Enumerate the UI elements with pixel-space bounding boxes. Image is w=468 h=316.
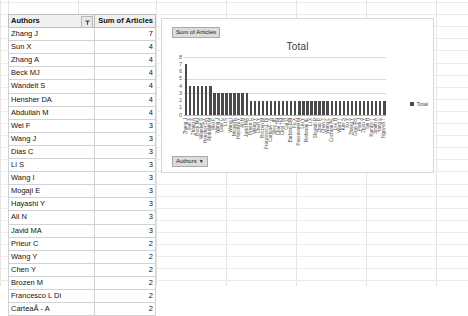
cell-author[interactable]: Hayashi Y <box>9 198 95 211</box>
chart-bar[interactable] <box>266 101 268 116</box>
chart-legend[interactable]: Total <box>410 101 428 107</box>
cell-sum-of-articles[interactable]: 4 <box>95 93 156 106</box>
chart-bar[interactable] <box>379 101 381 116</box>
table-row[interactable]: Prieur C2 <box>9 237 156 250</box>
chart-bar[interactable] <box>306 101 308 116</box>
chart-bar[interactable] <box>363 101 365 116</box>
chart-bar[interactable] <box>258 101 260 116</box>
table-row[interactable]: Zhang J7 <box>9 28 156 41</box>
chart-bar[interactable] <box>229 93 231 115</box>
chart-bar[interactable] <box>298 101 300 116</box>
table-row[interactable]: Abdullah M4 <box>9 106 156 119</box>
cell-sum-of-articles[interactable]: 3 <box>95 211 156 224</box>
chart-bar[interactable] <box>331 101 333 116</box>
chart-bar[interactable] <box>217 93 219 115</box>
cell-sum-of-articles[interactable]: 2 <box>95 276 156 289</box>
filter-sort-icon[interactable] <box>81 16 93 28</box>
chart-bar[interactable] <box>205 86 207 115</box>
column-header-sum-of-articles[interactable]: Sum of Articles <box>95 15 156 28</box>
cell-sum-of-articles[interactable]: 3 <box>95 119 156 132</box>
cell-author[interactable]: Ali N <box>9 211 95 224</box>
table-row[interactable]: Li S3 <box>9 159 156 172</box>
chart-bar[interactable] <box>290 101 292 116</box>
pivot-chart[interactable]: Sum of Articles Total 012345678 Zhang JS… <box>161 18 434 173</box>
table-row[interactable]: Javid MA3 <box>9 224 156 237</box>
chart-bar[interactable] <box>254 101 256 116</box>
cell-author[interactable]: Hensher DA <box>9 93 95 106</box>
chart-bar[interactable] <box>262 101 264 116</box>
table-row[interactable]: Beck MJ4 <box>9 67 156 80</box>
field-button-authors[interactable]: Authors ▼ <box>172 156 208 167</box>
cell-author[interactable]: Abdullah M <box>9 106 95 119</box>
cell-sum-of-articles[interactable]: 4 <box>95 54 156 67</box>
table-row[interactable]: Mogaji E3 <box>9 185 156 198</box>
chart-bar[interactable] <box>233 93 235 115</box>
cell-author[interactable]: Wang Y <box>9 250 95 263</box>
table-row[interactable]: Wei F3 <box>9 119 156 132</box>
cell-author[interactable]: Wang I <box>9 172 95 185</box>
cell-sum-of-articles[interactable]: 4 <box>95 106 156 119</box>
table-row[interactable]: Wandelt S4 <box>9 80 156 93</box>
chart-bar[interactable] <box>213 93 215 115</box>
cell-author[interactable]: Javid MA <box>9 224 95 237</box>
field-button-sum-of-articles[interactable]: Sum of Articles <box>172 27 220 38</box>
cell-sum-of-articles[interactable]: 2 <box>95 250 156 263</box>
cell-author[interactable]: Beck MJ <box>9 67 95 80</box>
chart-bar[interactable] <box>237 93 239 115</box>
table-row[interactable]: Chen Y2 <box>9 263 156 276</box>
chart-bar[interactable] <box>343 101 345 116</box>
chart-bar[interactable] <box>355 101 357 116</box>
cell-sum-of-articles[interactable]: 3 <box>95 198 156 211</box>
table-row[interactable]: Francesco L Di2 <box>9 289 156 302</box>
table-row[interactable]: Wang Y2 <box>9 250 156 263</box>
table-row[interactable]: Wang I3 <box>9 172 156 185</box>
cell-sum-of-articles[interactable]: 4 <box>95 80 156 93</box>
cell-author[interactable]: Francesco L Di <box>9 289 95 302</box>
cell-author[interactable]: Prieur C <box>9 237 95 250</box>
chart-bar[interactable] <box>339 101 341 116</box>
cell-author[interactable]: Brozen M <box>9 276 95 289</box>
cell-sum-of-articles[interactable]: 2 <box>95 263 156 276</box>
chart-bar[interactable] <box>347 101 349 116</box>
chart-bar[interactable] <box>274 101 276 116</box>
cell-author[interactable]: Wang J <box>9 132 95 145</box>
cell-sum-of-articles[interactable]: 3 <box>95 172 156 185</box>
cell-sum-of-articles[interactable]: 2 <box>95 237 156 250</box>
cell-author[interactable]: Wandelt S <box>9 80 95 93</box>
cell-sum-of-articles[interactable]: 3 <box>95 145 156 158</box>
chart-bar[interactable] <box>375 101 377 116</box>
cell-sum-of-articles[interactable]: 3 <box>95 159 156 172</box>
cell-sum-of-articles[interactable]: 3 <box>95 132 156 145</box>
table-row[interactable]: Brozen M2 <box>9 276 156 289</box>
chart-bar[interactable] <box>209 86 211 115</box>
table-row[interactable]: Sun X4 <box>9 41 156 54</box>
chart-bar[interactable] <box>193 86 195 115</box>
chart-bar[interactable] <box>383 101 385 116</box>
chart-bar[interactable] <box>351 101 353 116</box>
chart-bar[interactable] <box>335 101 337 116</box>
cell-author[interactable]: Sun X <box>9 41 95 54</box>
chart-bar[interactable] <box>250 101 252 116</box>
table-row[interactable]: Ali N3 <box>9 211 156 224</box>
cell-sum-of-articles[interactable]: 4 <box>95 41 156 54</box>
chart-bar[interactable] <box>326 101 328 116</box>
cell-sum-of-articles[interactable]: 2 <box>95 303 156 316</box>
chart-bar[interactable] <box>367 101 369 116</box>
chart-bar[interactable] <box>286 101 288 116</box>
chart-bar[interactable] <box>282 101 284 116</box>
cell-sum-of-articles[interactable]: 2 <box>95 289 156 302</box>
table-row[interactable]: CarteaÃ - A2 <box>9 303 156 316</box>
cell-sum-of-articles[interactable]: 3 <box>95 224 156 237</box>
table-row[interactable]: Zhang A4 <box>9 54 156 67</box>
chart-bar[interactable] <box>371 101 373 116</box>
table-row[interactable]: Wang J3 <box>9 132 156 145</box>
chart-bar[interactable] <box>322 101 324 116</box>
cell-sum-of-articles[interactable]: 4 <box>95 67 156 80</box>
chart-bar[interactable] <box>221 93 223 115</box>
chart-bar[interactable] <box>359 101 361 116</box>
chart-bar[interactable] <box>302 101 304 116</box>
cell-author[interactable]: Li S <box>9 159 95 172</box>
chart-bar[interactable] <box>318 101 320 116</box>
chart-bar[interactable] <box>185 64 187 115</box>
chart-bar[interactable] <box>270 101 272 116</box>
